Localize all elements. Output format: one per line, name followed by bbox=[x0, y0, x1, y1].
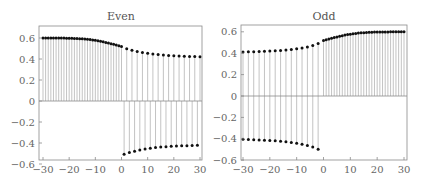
y-tick-label: 0 bbox=[231, 91, 237, 102]
data-point-marker bbox=[360, 31, 363, 34]
y-tick-label: 0.2 bbox=[19, 75, 35, 86]
data-point-marker bbox=[128, 151, 131, 154]
data-point-marker bbox=[373, 31, 376, 34]
stems bbox=[43, 38, 200, 154]
data-point-marker bbox=[252, 138, 255, 141]
data-point-marker bbox=[62, 37, 65, 40]
x-tick-label: −10 bbox=[85, 164, 106, 175]
data-point-marker bbox=[60, 37, 63, 40]
data-point-marker bbox=[110, 42, 113, 45]
x-tick-label: 20 bbox=[167, 164, 180, 175]
data-point-marker bbox=[136, 50, 139, 53]
data-point-marker bbox=[81, 37, 84, 40]
data-point-marker bbox=[188, 55, 191, 58]
data-point-marker bbox=[317, 148, 320, 151]
data-point-marker bbox=[242, 138, 245, 141]
data-point-marker bbox=[162, 54, 165, 57]
x-tick-label: 10 bbox=[344, 164, 357, 175]
data-point-marker bbox=[378, 31, 381, 34]
data-point-marker bbox=[123, 153, 126, 156]
odd-panel-title: Odd bbox=[312, 10, 335, 23]
data-point-marker bbox=[55, 37, 58, 40]
y-tick-label: −0.2 bbox=[11, 117, 35, 128]
data-point-marker bbox=[107, 42, 110, 45]
data-point-marker bbox=[311, 146, 314, 149]
data-point-marker bbox=[325, 38, 328, 41]
data-point-marker bbox=[301, 143, 304, 146]
odd-panel: Odd −30−20−1001020300.60.40.20−0.2−0.4−0… bbox=[213, 10, 411, 175]
data-point-marker bbox=[338, 35, 341, 38]
data-point-marker bbox=[346, 33, 349, 36]
y-tick-label: 0.6 bbox=[221, 26, 237, 37]
data-point-marker bbox=[47, 37, 50, 40]
data-point-marker bbox=[333, 36, 336, 39]
stem-plots-figure: Even −30−20−1001020300.60.40.20−0.2−0.4−… bbox=[0, 0, 426, 182]
data-point-marker bbox=[49, 37, 52, 40]
data-point-marker bbox=[279, 140, 282, 143]
data-point-marker bbox=[167, 54, 170, 57]
data-point-marker bbox=[357, 32, 360, 35]
data-point-marker bbox=[164, 145, 167, 148]
x-tick-label: −30 bbox=[32, 164, 53, 175]
y-tick-label: −0.6 bbox=[11, 159, 35, 170]
data-point-marker bbox=[89, 38, 92, 41]
data-point-marker bbox=[68, 37, 71, 40]
data-point-marker bbox=[354, 32, 357, 35]
y-tick-label: 0.4 bbox=[19, 54, 35, 65]
data-point-marker bbox=[370, 31, 373, 34]
data-point-marker bbox=[247, 50, 250, 53]
data-point-marker bbox=[144, 148, 147, 151]
data-point-marker bbox=[403, 30, 406, 33]
y-axis-ticks: 0.60.40.20−0.2−0.4−0.6 bbox=[213, 26, 244, 165]
data-point-marker bbox=[159, 146, 162, 149]
data-point-marker bbox=[180, 144, 183, 147]
data-point-marker bbox=[290, 48, 293, 51]
data-point-marker bbox=[335, 35, 338, 38]
data-point-marker bbox=[70, 37, 73, 40]
data-point-marker bbox=[112, 43, 115, 46]
x-tick-label: 10 bbox=[141, 164, 154, 175]
data-point-marker bbox=[178, 55, 181, 58]
data-point-marker bbox=[341, 34, 344, 37]
data-point-marker bbox=[199, 55, 202, 58]
y-tick-label: 0.6 bbox=[19, 33, 35, 44]
data-point-marker bbox=[83, 38, 86, 41]
data-point-marker bbox=[394, 30, 397, 33]
data-point-marker bbox=[91, 38, 94, 41]
data-point-marker bbox=[175, 145, 178, 148]
data-point-marker bbox=[52, 37, 55, 40]
data-point-marker bbox=[349, 33, 352, 36]
x-tick-label: 20 bbox=[371, 164, 384, 175]
data-point-marker bbox=[149, 147, 152, 150]
data-point-marker bbox=[99, 40, 102, 43]
data-point-marker bbox=[125, 47, 128, 50]
even-panel-title: Even bbox=[107, 10, 135, 23]
data-point-marker bbox=[172, 54, 175, 57]
data-point-marker bbox=[138, 149, 141, 152]
data-point-marker bbox=[365, 31, 368, 34]
data-point-marker bbox=[386, 30, 389, 33]
stems bbox=[243, 32, 404, 149]
y-tick-label: 0 bbox=[29, 96, 35, 107]
data-point-marker bbox=[104, 41, 107, 44]
x-tick-label: 0 bbox=[320, 164, 326, 175]
data-point-marker bbox=[274, 49, 277, 52]
x-tick-label: 0 bbox=[118, 164, 124, 175]
data-point-marker bbox=[284, 140, 287, 143]
data-point-marker bbox=[133, 150, 136, 153]
data-point-marker bbox=[362, 31, 365, 34]
data-point-marker bbox=[130, 49, 133, 52]
data-point-marker bbox=[146, 52, 149, 55]
data-point-marker bbox=[274, 139, 277, 142]
data-point-marker bbox=[154, 146, 157, 149]
y-axis-ticks: 0.60.40.20−0.2−0.4−0.6 bbox=[11, 33, 42, 170]
data-point-marker bbox=[343, 34, 346, 37]
x-tick-label: −20 bbox=[59, 164, 80, 175]
data-point-marker bbox=[193, 55, 196, 58]
data-point-marker bbox=[317, 42, 320, 45]
data-point-marker bbox=[157, 53, 160, 56]
data-point-marker bbox=[115, 44, 118, 47]
x-tick-label: 30 bbox=[194, 164, 207, 175]
data-point-marker bbox=[306, 144, 309, 147]
data-point-marker bbox=[183, 55, 186, 58]
